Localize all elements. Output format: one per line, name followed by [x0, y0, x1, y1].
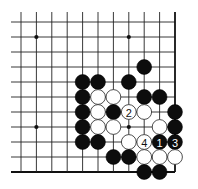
- black-stone: [137, 90, 152, 105]
- white-stone-disc: [91, 90, 106, 105]
- white-stone: [121, 135, 136, 150]
- white-stone: [152, 150, 167, 165]
- black-stone: [121, 75, 136, 90]
- black-stone: [91, 135, 106, 150]
- white-stone-disc: [106, 90, 121, 105]
- white-stone-disc: [91, 120, 106, 135]
- white-stone-disc: [137, 105, 152, 120]
- black-stone-disc: [91, 135, 106, 150]
- move-number-label: 1: [157, 137, 163, 149]
- move-number-label: 3: [172, 137, 178, 149]
- white-stone: 4: [137, 135, 152, 150]
- black-stone: [75, 105, 90, 120]
- black-stone-disc: [75, 90, 90, 105]
- black-stone: [91, 75, 106, 90]
- black-stone: [137, 165, 152, 180]
- white-stone: [91, 105, 106, 120]
- black-stone: 3: [168, 135, 183, 150]
- black-stone: [106, 105, 121, 120]
- black-stone-disc: [75, 135, 90, 150]
- star-point: [34, 35, 38, 39]
- black-stone-disc: [137, 90, 152, 105]
- black-stone: [75, 75, 90, 90]
- white-stone-disc: [152, 120, 167, 135]
- black-stone-disc: [168, 105, 183, 120]
- black-stone-disc: [137, 60, 152, 75]
- black-stone: [75, 120, 90, 135]
- stones-layer: 2413: [75, 60, 182, 180]
- black-stone-disc: [137, 165, 152, 180]
- white-stone: [106, 90, 121, 105]
- white-stone: [137, 150, 152, 165]
- white-stone: [152, 120, 167, 135]
- black-stone-disc: [91, 75, 106, 90]
- black-stone-disc: [106, 105, 121, 120]
- black-stone-disc: [152, 165, 167, 180]
- move-number-label: 4: [141, 137, 147, 149]
- white-stone-disc: [121, 135, 136, 150]
- star-point: [127, 125, 131, 129]
- white-stone-disc: [137, 150, 152, 165]
- black-stone-disc: [168, 120, 183, 135]
- black-stone: [121, 150, 136, 165]
- white-stone-disc: [91, 105, 106, 120]
- black-stone-disc: [75, 75, 90, 90]
- black-stone-disc: [75, 120, 90, 135]
- black-stone-disc: [106, 150, 121, 165]
- go-board-diagram: 2413: [0, 0, 198, 189]
- black-stone: [75, 90, 90, 105]
- white-stone: [106, 120, 121, 135]
- black-stone: [106, 150, 121, 165]
- black-stone: [75, 135, 90, 150]
- black-stone: [168, 105, 183, 120]
- black-stone: [168, 120, 183, 135]
- black-stone-disc: [75, 105, 90, 120]
- black-stone-disc: [121, 150, 136, 165]
- black-stone-disc: [121, 75, 136, 90]
- black-stone: [152, 165, 167, 180]
- star-point: [34, 125, 38, 129]
- white-stone-disc: [152, 150, 167, 165]
- white-stone: [137, 105, 152, 120]
- black-stone: [152, 90, 167, 105]
- black-stone: 1: [152, 135, 167, 150]
- white-stone-disc: [106, 120, 121, 135]
- white-stone: [91, 120, 106, 135]
- black-stone-disc: [152, 90, 167, 105]
- move-number-label: 2: [126, 107, 132, 119]
- white-stone-disc: [168, 150, 183, 165]
- white-stone: [91, 90, 106, 105]
- white-stone: [168, 150, 183, 165]
- star-point: [127, 35, 131, 39]
- black-stone: [137, 60, 152, 75]
- white-stone: 2: [121, 105, 136, 120]
